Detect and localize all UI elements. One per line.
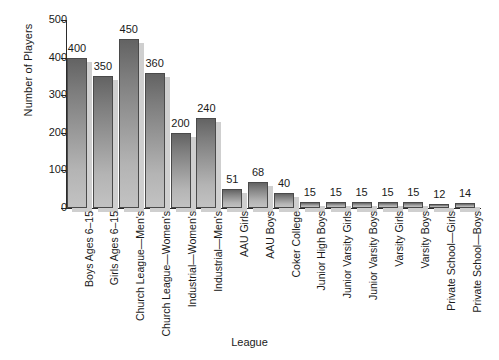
bar[interactable] [352,202,372,208]
x-axis-title: League [0,336,499,348]
bar[interactable] [455,203,475,208]
bar-group: 15 [403,20,428,208]
x-axis-label-slot: AAU Boys [248,211,273,331]
bar[interactable] [145,73,165,208]
x-axis-label-slot: Industrial—Women's [171,211,196,331]
bar-value-label: 68 [237,167,279,178]
plot-area: 40035045036020024051684015151515151214 [67,20,481,208]
bar-value-label: 350 [82,61,124,72]
bar-group: 40 [274,20,299,208]
bar[interactable] [300,202,320,208]
y-axis-tick-label: 200 [33,127,67,138]
x-axis-label-slot: Junior Varsity Girls [326,211,351,331]
bar[interactable] [93,76,113,208]
bar-value-label: 400 [56,43,98,54]
bar-group: 51 [222,20,247,208]
bar-group: 15 [300,20,325,208]
bar-group: 350 [93,20,118,208]
x-axis-label-slot: Private School—Boys [455,211,480,331]
bar-group: 12 [429,20,454,208]
y-axis-tick-label: 0 [33,202,67,213]
x-axis-label-slot: AAU Girls [222,211,247,331]
x-axis-label-slot: Private School—Girls [429,211,454,331]
bar-group: 200 [171,20,196,208]
x-axis-label-slot: Coker College [274,211,299,331]
x-axis-label-slot: Junior High Boys [300,211,325,331]
x-axis-label-slot: Church League—Men's [119,211,144,331]
bar-value-label: 14 [444,188,486,199]
bar-value-label: 450 [108,24,150,35]
bar-chart: Number of Players 0100200300400500 40035… [0,0,499,360]
x-axis-label-slot: Varsity Boys [403,211,428,331]
bar-value-label: 240 [185,103,227,114]
bar[interactable] [403,202,423,208]
x-axis-label-slot: Girls Ages 6–15 [93,211,118,331]
y-axis-tick-label: 100 [33,164,67,175]
bar[interactable] [67,58,87,208]
bar-group: 450 [119,20,144,208]
bar[interactable] [429,204,449,209]
bar-value-label: 200 [160,118,202,129]
y-axis-tick-label: 300 [33,89,67,100]
x-axis-label-slot: Varsity Girls [378,211,403,331]
bar-group: 15 [326,20,351,208]
bar[interactable] [171,133,191,208]
bar-group: 15 [352,20,377,208]
x-axis-category-labels: Boys Ages 6–15Girls Ages 6–15Church Leag… [67,211,481,331]
bar-group: 400 [67,20,92,208]
bar-group: 360 [145,20,170,208]
x-axis-label-slot: Church League—Women's [145,211,170,331]
bar[interactable] [326,202,346,208]
x-axis-label-slot: Boys Ages 6–15 [67,211,92,331]
x-axis-tick-label: Private School—Boys [472,211,483,313]
y-axis-tick-label: 500 [33,14,67,25]
x-axis-label-slot: Industrial—Men's [196,211,221,331]
bar[interactable] [378,202,398,208]
bar[interactable] [222,189,242,208]
bar-group: 14 [455,20,480,208]
x-axis-label-slot: Junior Varsity Boys [352,211,377,331]
bar-group: 15 [378,20,403,208]
bar-value-label: 360 [134,58,176,69]
bar[interactable] [196,118,216,208]
